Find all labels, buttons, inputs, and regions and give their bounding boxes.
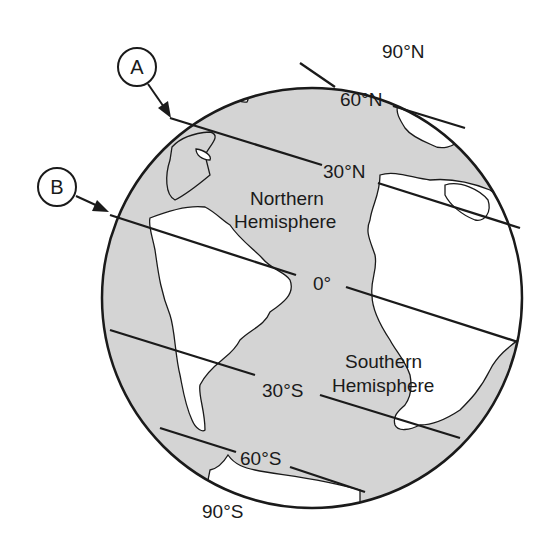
arrow-a-icon — [158, 101, 171, 118]
line-60n-left — [300, 63, 335, 87]
greenland — [340, 65, 385, 92]
arrow-b-icon — [92, 200, 109, 212]
label-northern-hemisphere: Hemisphere — [234, 211, 336, 232]
label-90s: 90°S — [202, 501, 243, 522]
callout-b: B — [38, 168, 109, 212]
label-equator: 0° — [313, 273, 331, 294]
label-southern-hemisphere: Hemisphere — [332, 375, 434, 396]
label-northern: Northern — [250, 188, 324, 209]
label-30s: 30°S — [262, 380, 303, 401]
svg-text:A: A — [130, 56, 144, 78]
label-southern: Southern — [345, 351, 422, 372]
globe-diagram: 90°N 60°N 30°N 0° 30°S 60°S 90°S Norther… — [0, 0, 558, 553]
callout-a: A — [118, 48, 171, 118]
label-90n: 90°N — [382, 41, 424, 62]
label-60s: 60°S — [240, 448, 281, 469]
label-60n: 60°N — [340, 89, 382, 110]
label-30n: 30°N — [323, 161, 365, 182]
svg-text:B: B — [50, 176, 63, 198]
